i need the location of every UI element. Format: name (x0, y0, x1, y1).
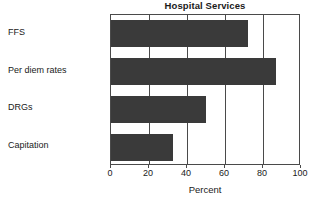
tick-label: 20 (133, 168, 163, 179)
bar-chart: Hospital Services FFSPer diem ratesDRGsC… (0, 0, 329, 203)
category-label: Per diem rates (8, 65, 106, 76)
plot-area (110, 14, 300, 165)
bar (111, 20, 248, 47)
bar (111, 134, 173, 161)
x-axis-label: Percent (110, 184, 300, 196)
bar (111, 58, 276, 85)
category-label: Capitation (8, 140, 106, 151)
bar-slot (111, 134, 301, 161)
tick-label: 0 (95, 168, 125, 179)
bar (111, 96, 206, 123)
tick-label: 80 (247, 168, 277, 179)
tick-label: 100 (285, 168, 315, 179)
bar-slot (111, 96, 301, 123)
category-label: DRGs (8, 102, 106, 113)
category-label: FFS (8, 27, 106, 38)
tick-label: 60 (209, 168, 239, 179)
chart-title: Hospital Services (110, 0, 300, 12)
bar-slot (111, 58, 301, 85)
tick-label: 40 (171, 168, 201, 179)
bar-slot (111, 20, 301, 47)
